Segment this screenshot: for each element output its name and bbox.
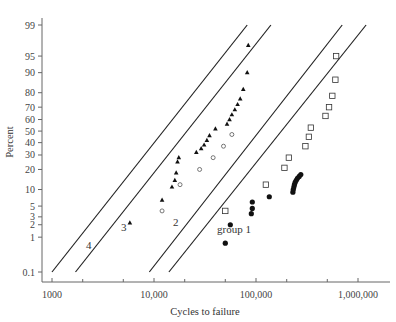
- y-tick-label: 40: [25, 137, 35, 148]
- y-tick-label: 10: [25, 184, 35, 195]
- point-filled-triangle: [202, 142, 207, 146]
- point-open-circle: [230, 133, 234, 137]
- point-filled-triangle: [235, 102, 240, 106]
- point-filled-circle: [267, 194, 272, 199]
- point-filled-triangle: [230, 112, 235, 116]
- point-filled-triangle: [194, 150, 199, 154]
- point-filled-circle: [223, 241, 228, 246]
- y-tick-label: 3: [30, 211, 35, 222]
- point-open-circle: [211, 156, 215, 160]
- point-open-circle: [221, 144, 225, 148]
- x-axis-title: Cycles to failure: [170, 306, 240, 317]
- point-filled-triangle: [205, 138, 210, 142]
- point-open-square: [303, 144, 308, 149]
- y-ticks: 0.112351020304050607080909599: [23, 20, 43, 278]
- point-filled-triangle: [241, 87, 246, 91]
- group-1-label: group 1: [217, 223, 251, 235]
- x-tick-label: 1000: [42, 289, 62, 300]
- x-tick-label: 1,000,000: [338, 289, 378, 300]
- y-tick-label: 70: [25, 102, 35, 113]
- y-tick-label: 1: [30, 232, 35, 243]
- y-tick-label: 0.1: [23, 267, 36, 278]
- point-filled-triangle: [233, 107, 238, 111]
- point-filled-triangle: [174, 170, 179, 174]
- point-filled-triangle: [213, 126, 218, 130]
- line-label-2: 2: [173, 216, 179, 228]
- point-open-square: [282, 165, 287, 170]
- fit-lines: [52, 25, 366, 272]
- point-open-circle: [198, 167, 202, 171]
- x-ticks: 100010,000100,0001,000,000: [42, 278, 378, 300]
- y-tick-label: 99: [25, 20, 35, 31]
- point-filled-triangle: [246, 43, 251, 47]
- point-filled-triangle: [225, 122, 230, 126]
- point-open-square: [326, 104, 331, 109]
- point-open-circle: [160, 209, 164, 213]
- point-filled-triangle: [173, 178, 178, 182]
- x-tick-label: 10,000: [140, 289, 168, 300]
- point-filled-triangle: [199, 146, 204, 150]
- point-filled-triangle: [128, 220, 133, 224]
- point-open-square: [308, 125, 313, 130]
- point-open-square: [323, 113, 328, 118]
- point-open-square: [306, 134, 311, 139]
- line-label-4: 4: [86, 239, 92, 251]
- point-open-square: [333, 53, 338, 58]
- point-filled-circle: [250, 206, 255, 211]
- point-filled-circle: [250, 199, 255, 204]
- y-axis-title: Percent: [4, 126, 15, 158]
- point-open-square: [330, 93, 335, 98]
- point-filled-triangle: [238, 96, 243, 100]
- point-filled-triangle: [160, 198, 165, 202]
- point-filled-triangle: [176, 155, 181, 159]
- y-tick-label: 50: [25, 126, 35, 137]
- point-open-square: [333, 77, 338, 82]
- point-filled-triangle: [170, 184, 175, 188]
- point-filled-triangle: [207, 133, 212, 137]
- y-tick-label: 80: [25, 87, 35, 98]
- y-tick-label: 5: [30, 201, 35, 212]
- point-filled-circle: [298, 172, 303, 177]
- line-label-3: 3: [121, 221, 127, 233]
- point-open-square: [286, 155, 291, 160]
- point-filled-triangle: [245, 70, 250, 74]
- fit-line-group-1: [169, 25, 366, 272]
- y-tick-label: 30: [25, 149, 35, 160]
- x-tick-label: 100,000: [240, 289, 273, 300]
- point-open-square: [223, 208, 228, 213]
- point-filled-triangle: [227, 117, 232, 121]
- point-filled-circle: [249, 211, 254, 216]
- probability-plot: 0.112351020304050607080909599 100010,000…: [0, 0, 396, 322]
- y-tick-label: 60: [25, 114, 35, 125]
- y-tick-label: 95: [25, 51, 35, 62]
- point-filled-triangle: [175, 159, 180, 163]
- point-open-square: [263, 182, 268, 187]
- y-tick-label: 20: [25, 164, 35, 175]
- y-tick-label: 90: [25, 67, 35, 78]
- point-open-circle: [178, 183, 182, 187]
